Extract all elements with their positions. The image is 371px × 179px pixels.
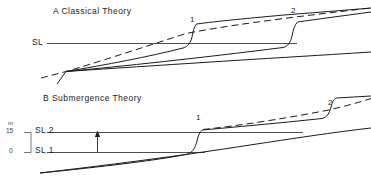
panel-b-scale-top-value: 15	[6, 127, 13, 134]
panel-b-lower-basement-profile	[40, 128, 371, 173]
panel-b-scale-bottom-value: 0	[9, 147, 13, 154]
panel-b-sea-level-1-label: SL 1	[35, 145, 54, 155]
panel-b-title: B Submergence Theory	[43, 93, 142, 103]
panel-b-marker-1: 1	[196, 113, 200, 122]
panel-b-graphics	[24, 96, 371, 173]
panel-a-sea-level-label: SL	[32, 37, 43, 47]
figure-container: A Classical Theory SL 1 2 B Submergence …	[0, 0, 371, 179]
panel-a-marker-1: 1	[190, 15, 194, 24]
panel-b-scale-unit: m	[8, 120, 13, 126]
diagram-svg	[0, 0, 371, 179]
panel-a-title: A Classical Theory	[53, 6, 131, 16]
panel-b-sea-level-2-label: SL 2	[35, 125, 54, 135]
panel-b-dashed-upper-profile	[203, 99, 371, 130]
panel-a-graphics	[41, 8, 371, 84]
panel-b-marker-2: 2	[328, 98, 332, 107]
panel-a-marker-2: 2	[291, 6, 295, 15]
panel-b-submergence-arrow-head	[95, 131, 100, 138]
panel-b-scale-bracket	[24, 133, 31, 153]
